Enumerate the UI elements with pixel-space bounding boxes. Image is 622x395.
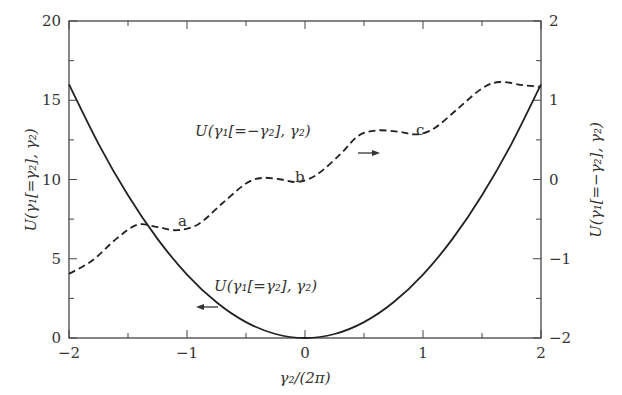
x-tick-label: 0 [300, 344, 310, 362]
x-tick-label: 1 [418, 344, 428, 362]
y-right-tick-label: 1 [549, 91, 559, 109]
y-left-tick-label: 20 [42, 12, 61, 30]
series-label-dashed: U(γ₁[=−γ₂], γ₂) [195, 122, 311, 140]
x-tick-label: −2 [58, 344, 80, 362]
x-tick-label: −1 [176, 344, 198, 362]
y-right-tick-label: 2 [549, 12, 559, 30]
y-right-tick-label: 0 [549, 171, 559, 189]
series-label-solid: U(γ₁[=γ₂], γ₂) [214, 277, 317, 295]
x-tick-label: 2 [536, 344, 546, 362]
series-line-dashed [69, 82, 541, 274]
chart: −2−101205101520−2−1012 a b c U(γ₁[=−γ₂],… [0, 0, 622, 395]
y-right-tick-label: −1 [549, 250, 571, 268]
y-axis-label-right: U(γ₁[=−γ₂], γ₂) [587, 122, 605, 238]
series-group [69, 82, 541, 338]
y-left-tick-label: 5 [51, 250, 61, 268]
annotation-a: a [178, 212, 187, 230]
tick-labels: −2−101205101520−2−1012 [42, 12, 571, 362]
y-left-tick-label: 10 [42, 171, 61, 189]
y-left-tick-label: 0 [51, 329, 61, 347]
y-axis-label-left: U(γ₁[=γ₂], γ₂) [22, 128, 40, 231]
y-right-tick-label: −2 [549, 329, 571, 347]
x-axis-label: γ₂/(2π) [279, 369, 330, 387]
annotation-b: b [295, 168, 305, 186]
arrow-right-icon [358, 150, 380, 156]
arrow-left-icon [196, 304, 218, 310]
annotation-c: c [416, 121, 424, 139]
y-left-tick-label: 15 [42, 91, 61, 109]
